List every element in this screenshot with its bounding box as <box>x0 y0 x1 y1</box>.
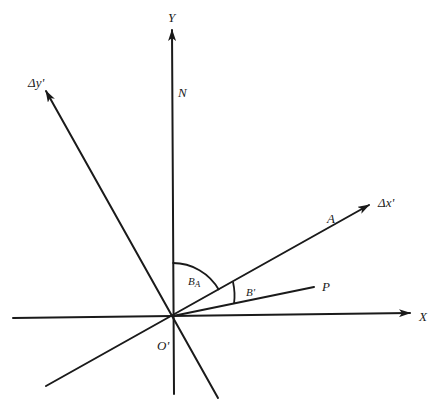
p-line <box>173 287 314 316</box>
label-x: X <box>418 309 428 324</box>
label-origin: O' <box>157 338 169 353</box>
x-axis <box>13 313 410 318</box>
label-b-a: BA <box>188 275 201 289</box>
label-y: Y <box>168 10 177 25</box>
label-a: A <box>326 211 335 226</box>
dy-prime-axis <box>46 91 218 398</box>
label-p: P <box>321 279 330 294</box>
angle-arc-b-prime <box>233 282 235 304</box>
dx-prime-axis <box>46 205 369 386</box>
diagram-canvas: Y N Δy' A Δx' BA B' P X O' <box>0 0 439 412</box>
label-dy-prime: Δy' <box>27 75 44 90</box>
y-axis <box>172 30 174 394</box>
label-b-prime: B' <box>246 286 256 298</box>
label-n: N <box>177 85 188 100</box>
label-dx-prime: Δx' <box>377 195 394 210</box>
